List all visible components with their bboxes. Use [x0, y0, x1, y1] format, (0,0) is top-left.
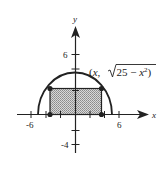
y-tick-label-neg4: -4	[61, 140, 69, 150]
y-tick-label-6: 6	[63, 50, 68, 60]
y-axis-label: y	[72, 14, 77, 24]
point-label: (x, 25 − x2)	[89, 65, 156, 80]
x-tick-label-6: 6	[117, 120, 122, 130]
svg-text:(x,: (x,	[89, 66, 101, 79]
label-comma: ,	[98, 66, 101, 78]
point-bottom-right	[99, 112, 104, 117]
semicircle-rectangle-diagram: y x -6 6 6 -4 (x, 25 − x2)	[0, 0, 166, 171]
point-top-left	[47, 86, 52, 91]
point-top-right	[99, 86, 104, 91]
x-tick-label-neg6: -6	[26, 120, 34, 130]
point-bottom-left	[47, 112, 52, 117]
svg-text:25 − x2): 25 − x2)	[117, 66, 152, 79]
label-radicand: 25 −	[117, 66, 140, 78]
x-axis-label: x	[151, 110, 156, 120]
label-close-paren: )	[148, 66, 152, 79]
